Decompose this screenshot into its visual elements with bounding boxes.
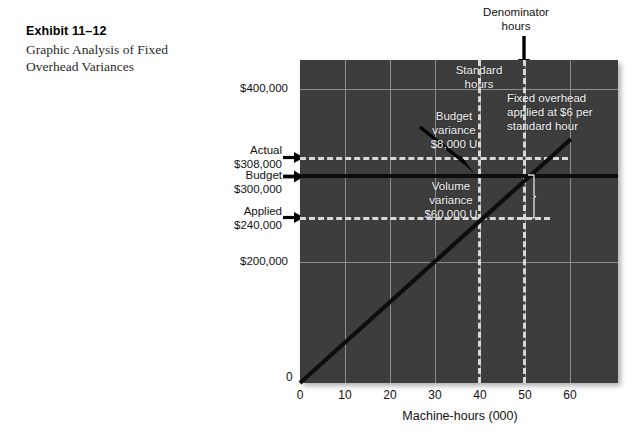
x-tick-20: 20: [376, 388, 404, 402]
actual-callout-label: Actual $308,000: [198, 143, 282, 171]
y-tick-400000: $400,000: [192, 82, 288, 94]
x-tick-0: 0: [286, 388, 314, 402]
x-axis-title: Machine-hours (000): [370, 409, 550, 423]
denominator-hours-label: Denominator hours: [462, 5, 570, 33]
chart-plot-area: Standard hours Budget variance $8,000 U …: [300, 60, 618, 383]
exhibit-caption: Exhibit 11–12 Graphic Analysis of Fixed …: [26, 24, 236, 75]
volume-variance-label: Volume variance $60,000 U: [396, 179, 506, 221]
y-tick-200000: $200,000: [192, 255, 288, 267]
x-tick-10: 10: [331, 388, 359, 402]
standard-hours-chart-label: Standard hours: [426, 63, 532, 91]
budget-variance-label: Budget variance $8,000 U: [408, 109, 500, 151]
exhibit-subtitle: Graphic Analysis of Fixed Overhead Varia…: [26, 41, 236, 75]
budget-callout-label: Budget $300,000: [198, 168, 282, 196]
x-tick-40: 40: [466, 388, 494, 402]
applied-callout-label: Applied $240,000: [198, 204, 282, 232]
volume-variance-bracket-icon: [527, 174, 537, 220]
x-tick-60: 60: [556, 388, 584, 402]
applied-line-note-label: Fixed overhead applied at $6 per standar…: [507, 91, 622, 133]
exhibit-title: Exhibit 11–12: [26, 24, 236, 38]
x-tick-30: 30: [421, 388, 449, 402]
x-tick-50: 50: [511, 388, 539, 402]
y-axis-origin-label: 0: [286, 370, 293, 384]
